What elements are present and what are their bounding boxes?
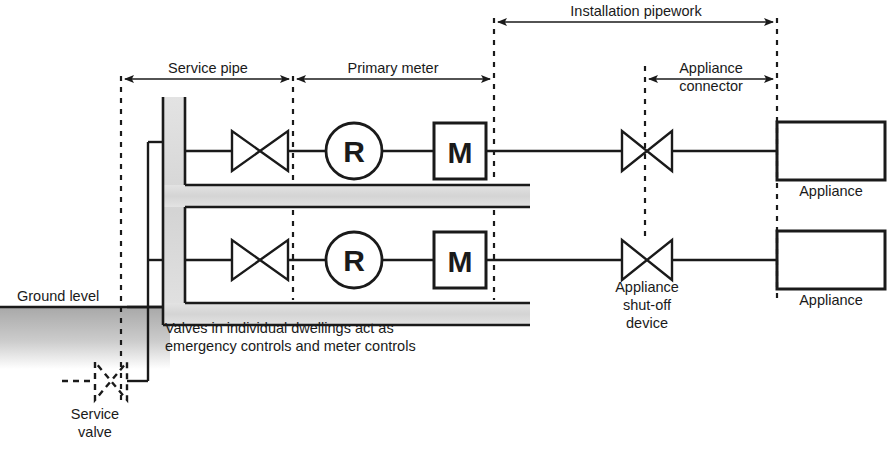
dwelling-valves-note-line2: emergency controls and meter controls	[165, 338, 416, 354]
lower-meter: M	[434, 232, 486, 288]
lower-appliance-box	[777, 231, 885, 289]
primary-meter-label: Primary meter	[347, 60, 438, 76]
ground-region	[0, 307, 170, 369]
lower-meter-label: M	[448, 245, 473, 278]
lower-regulator: R	[326, 232, 382, 288]
ground-level-label: Ground level	[17, 288, 99, 304]
installation-pipework-label: Installation pipework	[570, 3, 702, 19]
service-pipe-label: Service pipe	[168, 60, 248, 76]
upper-appliance-shutoff-valve	[622, 131, 672, 171]
lower-appliance-label: Appliance	[799, 292, 863, 308]
appliance-connector-label-line2: connector	[679, 78, 743, 94]
service-valve-label-line2: valve	[78, 424, 112, 440]
appliance-connector-label-line1: Appliance	[679, 60, 743, 76]
appliance-shutoff-label-line3: device	[626, 315, 668, 331]
upper-meter: M	[434, 123, 486, 179]
upper-appliance-label: Appliance	[799, 183, 863, 199]
lower-regulator-label: R	[343, 244, 365, 277]
lower-meter-control-valve	[232, 240, 288, 280]
upper-appliance-box	[777, 122, 885, 180]
service-valve-label-line1: Service	[71, 406, 119, 422]
upper-regulator-label: R	[343, 135, 365, 168]
upper-meter-control-valve	[232, 131, 288, 171]
dwelling-valves-note-line1: Valves in individual dwellings act as	[165, 320, 394, 336]
upper-regulator: R	[326, 123, 382, 179]
appliance-shutoff-label-line2: shut-off	[623, 297, 672, 313]
appliance-shutoff-label-line1: Appliance	[615, 279, 679, 295]
lower-appliance-shutoff-valve	[622, 240, 672, 280]
diagram-canvas: R M Appliance R M Applianc	[0, 0, 895, 449]
upper-meter-label: M	[448, 136, 473, 169]
